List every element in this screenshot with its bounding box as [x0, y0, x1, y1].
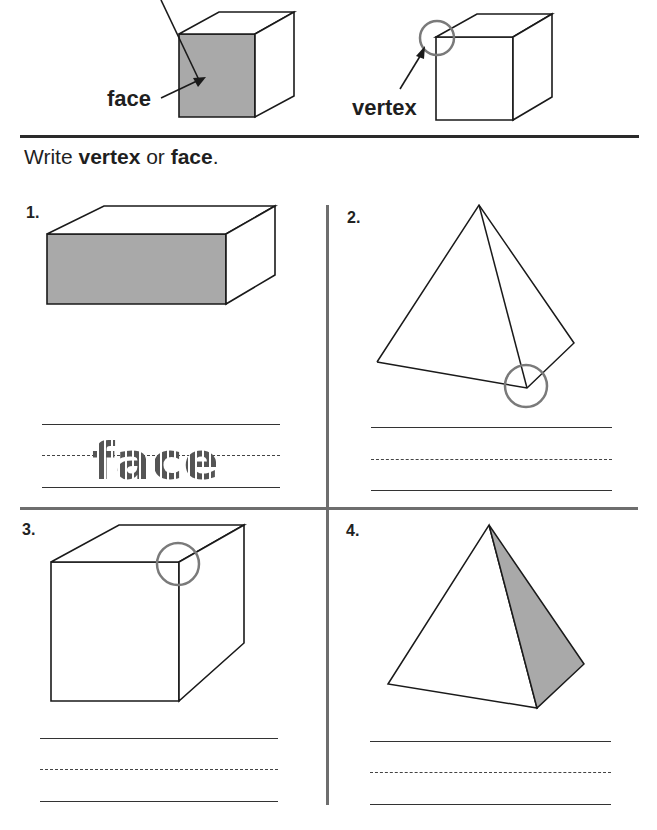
mid-dashed-line — [371, 459, 612, 460]
instruction-word-face: face — [171, 145, 213, 168]
top-separator — [20, 135, 639, 138]
instruction-middle: or — [140, 145, 170, 168]
horizontal-divider — [20, 507, 638, 510]
face-example-label: face — [107, 86, 151, 112]
traced-answer: face — [92, 435, 220, 487]
instruction-text: Write vertex or face. — [24, 145, 219, 169]
problem-4-pyramid — [388, 525, 584, 708]
vertex-arrow-icon — [400, 46, 425, 89]
instruction-word-vertex: vertex — [78, 145, 140, 168]
problem-2-pyramid — [377, 205, 574, 388]
problem-2-number: 2. — [347, 209, 360, 227]
top-writing-line — [370, 741, 611, 742]
top-writing-line — [40, 738, 278, 739]
base-writing-line — [370, 804, 611, 805]
vertex-example-label: vertex — [352, 95, 417, 121]
base-writing-line — [371, 490, 612, 491]
mid-dashed-line — [40, 769, 278, 770]
vertical-divider — [326, 205, 329, 805]
example-cube-vertex — [436, 14, 552, 120]
problem-3-cube — [51, 525, 244, 701]
top-writing-line — [42, 424, 280, 425]
base-writing-line — [40, 801, 278, 802]
worksheet-drawings — [0, 0, 657, 830]
example-cube-face — [179, 12, 294, 117]
problem-4-number: 4. — [346, 522, 359, 540]
top-writing-line — [371, 427, 612, 428]
problem-3-number: 3. — [22, 521, 35, 539]
instruction-suffix: . — [213, 145, 219, 168]
problem-1-number: 1. — [26, 204, 39, 222]
instruction-prefix: Write — [24, 145, 78, 168]
traced-answer-text: face — [92, 431, 220, 491]
problem-1-prism — [47, 206, 275, 304]
mid-dashed-line — [370, 772, 611, 773]
